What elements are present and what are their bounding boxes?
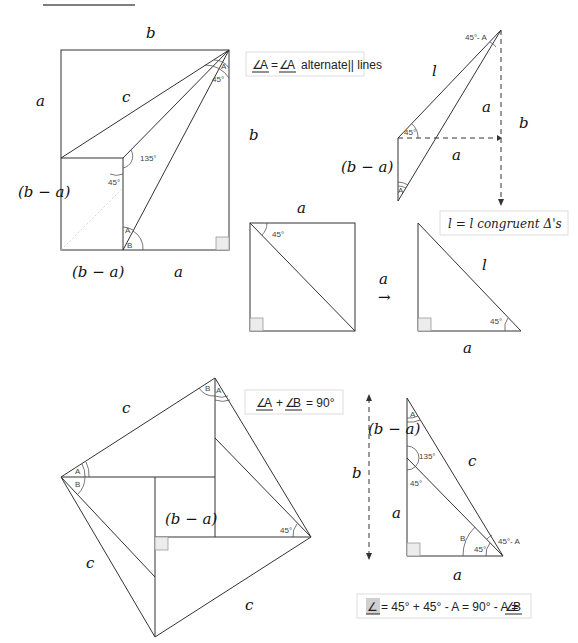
note-final-text: = 45° + 45° - A = 90° - A = [381, 600, 518, 614]
angle-45-label-br-bottom: 45° [474, 545, 486, 554]
label-b-minus-a-left: (b − a) [18, 183, 71, 201]
hypotenuse-c-line [61, 50, 229, 158]
label-a-iso-bottom: a [463, 339, 472, 357]
label-a-br-bottom: a [453, 566, 462, 584]
label-a-upper: a [482, 98, 491, 116]
label-l-iso: l [482, 256, 487, 274]
label-l-top: l [432, 62, 437, 80]
note-final-angle-B: B [513, 600, 521, 614]
svg-text:∠: ∠ [367, 600, 378, 614]
angle-B-label: B [127, 241, 132, 250]
angle-B-label-br: B [460, 534, 465, 543]
big-square-figure: b a c b (b − a) (b − a) a 135° 45° A 45°… [18, 24, 259, 281]
small-square-figure: 45° a a → [250, 199, 391, 331]
angle-45-minus-A-label-br: 45°- A [498, 537, 521, 546]
note-sum-angle-A: A [264, 396, 272, 410]
angle-45-label-iso: 45° [490, 317, 502, 326]
note-sum-equals: = 90° [306, 396, 335, 410]
angle-A-label-left: A [75, 467, 81, 476]
angle-135-label: 135° [140, 154, 157, 163]
geometry-diagram: b a c b (b − a) (b − a) a 135° 45° A 45°… [0, 0, 578, 643]
angle-A-label-tr: A [398, 186, 404, 195]
label-a-square-top: a [297, 199, 306, 217]
angle-A-label-bottom: A [125, 226, 131, 235]
label-c-left: c [86, 554, 95, 572]
note-congruent: l = l congruent Δ's [440, 211, 568, 235]
note-final-equation: ∠ = 45° + 45° - A = 90° - A = ∠ B [357, 594, 531, 618]
angle-45-minus-A-label-top: 45°- A [465, 33, 488, 42]
note-sum-plus: + [276, 396, 283, 410]
label-b-right: b [249, 126, 259, 144]
angle-45-arc [110, 174, 123, 175]
right-angle-marker [216, 237, 229, 250]
angle-135-label-br: 135° [419, 452, 436, 461]
label-b-br: b [352, 464, 362, 482]
label-a-arrow: a [379, 270, 388, 288]
angle-45-label-top: 45° [212, 75, 224, 84]
note-congruent-text: l = l congruent Δ's [448, 217, 562, 231]
angle-45-label: 45° [108, 178, 120, 187]
angle-45-label-tr: 45° [404, 128, 416, 137]
label-a-left: a [36, 92, 45, 110]
label-a-br-left: a [392, 504, 401, 522]
label-c: c [122, 88, 131, 106]
angle-B-label-topv: B [205, 384, 210, 393]
angle-A-label-topv: A [216, 386, 222, 395]
angle-A-label-br: A [410, 410, 416, 419]
note-angle-A-1: A [260, 58, 268, 72]
label-b-minus-a-mid: (b − a) [341, 158, 394, 176]
angle-A-label-top: A [221, 62, 227, 71]
note-alternate-lines: ∠ A = ∠ A alternate|| lines [246, 52, 382, 76]
label-c-bottom: c [245, 596, 254, 614]
angle-45-label-sq: 45° [272, 230, 284, 239]
angle-45-label-br: 45° [410, 479, 422, 488]
label-b-side: b [519, 114, 529, 132]
arrow-symbol: → [378, 288, 391, 306]
angle-B-label-left: B [75, 480, 80, 489]
label-b-minus-a-bottom: (b − a) [72, 263, 125, 281]
note-sum-angle-B: B [293, 396, 301, 410]
note-angle-A-2: A [287, 58, 295, 72]
label-a-bottom: a [174, 263, 183, 281]
note-equals: = [271, 58, 278, 72]
note-alternate-text: alternate|| lines [301, 58, 382, 72]
note-sum-90: ∠ A + ∠ B = 90° [245, 390, 343, 414]
label-b-minus-a-br: (b − a) [368, 420, 421, 438]
label-b-top: b [146, 24, 156, 42]
big-square [61, 50, 229, 250]
label-c-top: c [122, 399, 131, 417]
angle-B-arc [133, 231, 143, 250]
label-c-br: c [468, 452, 477, 470]
arrowhead-down [498, 199, 504, 206]
angle-45-label-right: 45° [280, 526, 292, 535]
isosceles-triangle-figure: 45° l a [418, 223, 521, 357]
tilted-square-figure: A B B A 45° c c c (b − a) [61, 378, 311, 637]
label-a-lower: a [452, 146, 461, 164]
label-b-minus-a-inner: (b − a) [165, 510, 218, 528]
rotated-triangle-figure: 45°- A l a b a (b − a) 45° A [341, 30, 529, 206]
final-triangle-figure: A 135° 45° B 45° 45°- A (b − a) b c a a [352, 394, 521, 584]
